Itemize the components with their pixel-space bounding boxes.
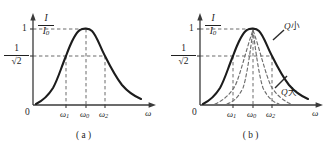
x-tick-sub-omega2-b: 2 xyxy=(272,112,275,119)
y-axis-denominator-a: I0 xyxy=(38,27,54,37)
half-power-denominator-b: √2 xyxy=(171,57,196,67)
radicand-b: 2 xyxy=(184,56,189,66)
origin-label-b: 0 xyxy=(192,108,197,118)
y-axis-denominator-sub-b: 0 xyxy=(213,29,217,37)
x-tick-sub-omega1-b: 1 xyxy=(233,112,236,119)
resonance-curves-figure: I I0 1 1 √2 0 ω1 ω0 ω2 ω ( a ) xyxy=(0,0,334,151)
resonance-curve-a xyxy=(36,29,141,104)
x-axis-label-b: ω xyxy=(312,109,318,118)
panel-b-caption: ( b ) xyxy=(167,130,334,140)
y-tick-label-one-a: 1 xyxy=(22,24,27,34)
q-small-leader-b xyxy=(273,30,284,40)
x-tick-sub-omega1-a: 1 xyxy=(66,112,69,119)
y-axis-arrow-b xyxy=(197,13,202,20)
y-tick-label-half-power-b: 1 √2 xyxy=(171,44,196,67)
y-axis-numerator-a: I xyxy=(38,14,54,24)
y-axis-arrow-a xyxy=(30,13,35,20)
x-tick-sub-omega2-a: 2 xyxy=(105,112,108,119)
half-power-numerator-b: 1 xyxy=(171,44,196,54)
x-tick-sub-omega0-a: 0 xyxy=(86,112,89,119)
x-tick-label-omega0-b: ω0 xyxy=(247,110,256,120)
y-tick-label-half-power-a: 1 √2 xyxy=(4,44,29,67)
y-axis-label-b: I I0 xyxy=(205,14,221,37)
panel-a-caption: ( a ) xyxy=(0,130,167,140)
x-tick-label-omega2-a: ω2 xyxy=(99,110,108,120)
q-large-text: 大 xyxy=(288,87,297,97)
x-tick-label-omega1-a: ω1 xyxy=(60,110,69,120)
half-power-denominator-a: √2 xyxy=(4,57,29,67)
origin-label-a: 0 xyxy=(25,108,30,118)
x-tick-sub-omega0-b: 0 xyxy=(253,112,256,119)
q-small-symbol: Q xyxy=(284,21,291,31)
panel-a: I I0 1 1 √2 0 ω1 ω0 ω2 ω ( a ) xyxy=(0,0,167,151)
annotation-q-small: Q小 xyxy=(284,22,300,31)
fraction-bar-b xyxy=(205,25,221,26)
x-axis-arrow-a xyxy=(149,102,156,107)
x-axis-arrow-b xyxy=(316,102,323,107)
y-axis-denominator-sub-a: 0 xyxy=(46,29,50,37)
x-tick-label-omega0-a: ω0 xyxy=(80,110,89,120)
q-large-symbol: Q xyxy=(281,87,288,97)
y-tick-label-one-b: 1 xyxy=(189,24,194,34)
half-power-numerator-a: 1 xyxy=(4,44,29,54)
y-axis-numerator-b: I xyxy=(205,14,221,24)
y-axis-label-a: I I0 xyxy=(38,14,54,37)
radicand-a: 2 xyxy=(17,56,22,66)
x-tick-label-omega1-b: ω1 xyxy=(227,110,236,120)
y-axis-denominator-b: I0 xyxy=(205,27,221,37)
q-small-text: 小 xyxy=(291,21,300,31)
fraction-bar-a xyxy=(38,25,54,26)
annotation-q-large: Q大 xyxy=(281,88,297,97)
x-axis-label-a: ω xyxy=(145,109,151,118)
panel-b: I I0 1 1 √2 0 ω1 ω0 ω2 ω Q小 Q大 ( b ) xyxy=(167,0,334,151)
x-tick-label-omega2-b: ω2 xyxy=(266,110,275,120)
